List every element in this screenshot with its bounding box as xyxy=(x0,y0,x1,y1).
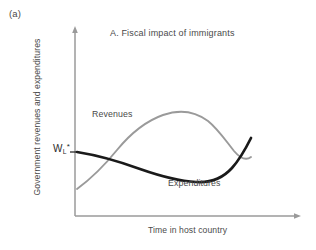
x-axis-arrowhead xyxy=(294,213,301,219)
y-axis xyxy=(72,26,78,216)
expenditures-series-label: Expenditures xyxy=(168,178,221,188)
y-axis-arrowhead xyxy=(72,26,78,33)
wage-subscript: L xyxy=(63,148,67,155)
x-axis xyxy=(75,213,301,219)
wage-base: W xyxy=(53,143,62,154)
figure-panel: (a) A. Fiscal impact of immigrants Gover… xyxy=(0,0,316,250)
wage-marker-label: WL* xyxy=(53,143,70,156)
expenditures-curve xyxy=(77,138,251,182)
revenues-series-label: Revenues xyxy=(92,109,132,119)
plot-area xyxy=(0,0,316,250)
wage-superscript: * xyxy=(67,142,70,151)
